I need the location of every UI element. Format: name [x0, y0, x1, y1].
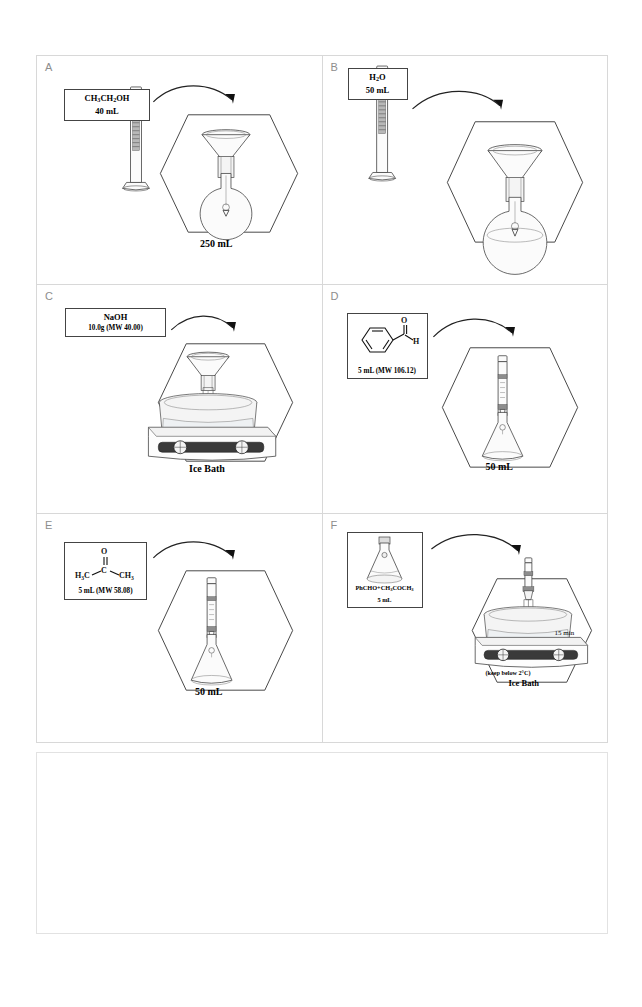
- atom-label-o: O: [101, 547, 107, 556]
- panel-c: C NaOH 10.0g (MW 40.00): [37, 285, 323, 514]
- reagent-name-c: NaOH: [71, 312, 160, 323]
- reagent-name-f: PhCHO+CH3COCH3: [348, 583, 422, 594]
- round-bottom-flask-a: [200, 173, 252, 239]
- atom-label-c: C: [101, 566, 107, 575]
- stir-plate-f: [475, 637, 587, 667]
- erlenmeyer-flask-d: [482, 412, 523, 460]
- reagent-name-b: H2O: [354, 72, 402, 85]
- reagent-amount-c: 10.0g (MW 40.00): [71, 323, 160, 333]
- curved-arrow-e: [153, 542, 235, 560]
- funnel-a: [202, 130, 250, 159]
- pipette-e: [207, 578, 216, 640]
- reagent-label-d: O H 5 mL (MW 106.12): [347, 313, 428, 379]
- benzaldehyde-structure: O H: [348, 314, 429, 364]
- atom-label-h: H: [413, 337, 420, 346]
- premixed-flask-icon: [348, 533, 424, 589]
- vessel-volume-e: 50 mL: [195, 686, 223, 697]
- reagent-amount-a: 40 mL: [70, 106, 144, 117]
- vessel-volume-a: 250 mL: [200, 238, 233, 249]
- acetone-structure: O C H3C CH3: [65, 543, 148, 585]
- stir-plate-c: [148, 427, 275, 460]
- curved-arrow-c: [171, 316, 236, 332]
- vessel-volume-d: 50 mL: [486, 461, 514, 472]
- curved-arrow-b: [412, 91, 503, 110]
- funnel-c: [187, 352, 229, 377]
- reagent-label-c: NaOH 10.0g (MW 40.00): [65, 308, 166, 337]
- pipette-d: [498, 356, 507, 418]
- atom-label-o: O: [401, 316, 407, 325]
- panel-e: E O C H3C CH3 5 mL (MW 58.08): [37, 514, 323, 743]
- panel-d: D O H 5 mL (MW 106.12): [323, 285, 609, 514]
- reagent-amount-d: 5 mL (MW 106.12): [348, 366, 427, 376]
- funnel-b: [488, 145, 542, 180]
- reagent-amount-b: 50 mL: [354, 85, 402, 96]
- panel-a: A CH3CH2OH 40 mL: [37, 56, 323, 285]
- figure-page: A CH3CH2OH 40 mL: [0, 0, 642, 1007]
- ice-bath-label-f: Ice Bath: [509, 678, 539, 688]
- round-bottom-flask-b: [483, 197, 547, 274]
- caption-area: [36, 752, 608, 934]
- erlenmeyer-flask-e: [191, 634, 232, 685]
- atom-label-ch3: CH3: [119, 571, 134, 581]
- panel-b: B H2O 50 mL: [323, 56, 609, 285]
- panel-f: F PhCHO+CH3COCH3 5 mL: [323, 514, 609, 743]
- reagent-label-f: PhCHO+CH3COCH3 5 mL: [347, 532, 423, 608]
- reagent-name-a: CH3CH2OH: [70, 93, 144, 106]
- syringe-f: [522, 558, 533, 609]
- duration-label-f: 15 min: [555, 629, 575, 637]
- reagent-amount-e: 5 mL (MW 58.08): [65, 586, 146, 596]
- temperature-note-f: (keep below 2°C): [486, 669, 531, 676]
- ice-bath-label-c: Ice Bath: [189, 463, 225, 474]
- reagent-label-e: O C H3C CH3 5 mL (MW 58.08): [64, 542, 147, 600]
- reagent-label-a: CH3CH2OH 40 mL: [64, 89, 150, 121]
- curved-arrow-f: [431, 535, 521, 555]
- panel-grid: A CH3CH2OH 40 mL: [36, 55, 608, 743]
- reagent-amount-f: 5 mL: [348, 595, 422, 604]
- atom-label-h3c: H3C: [75, 571, 90, 581]
- curved-arrow-d: [433, 319, 515, 337]
- reagent-label-b: H2O 50 mL: [348, 68, 408, 100]
- curved-arrow-a: [153, 86, 235, 104]
